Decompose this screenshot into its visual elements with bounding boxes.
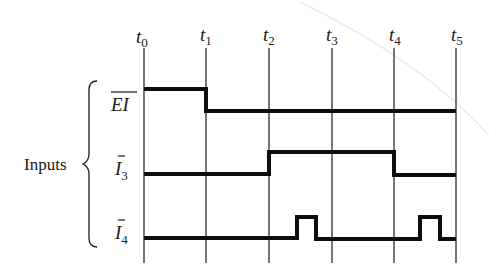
time-label-t3: t3 [326, 24, 338, 48]
waveform-i4 [144, 217, 456, 239]
waveform-i3 [144, 152, 456, 175]
time-label-t1: t1 [200, 24, 212, 48]
time-label-t4: t4 [389, 24, 401, 48]
timing-diagram: t0 t1 t2 t3 t4 t5 Inputs EI I3 I4 [0, 0, 489, 274]
signal-label-i4: I4 [114, 220, 128, 247]
time-label-t5: t5 [451, 24, 463, 48]
svg-text:I3: I3 [114, 158, 128, 183]
time-grid [144, 48, 456, 263]
svg-text:EI: EI [110, 94, 131, 115]
waveform-ei [144, 89, 456, 111]
signal-label-ei: EI [110, 92, 137, 115]
time-labels: t0 t1 t2 t3 t4 t5 [136, 24, 463, 50]
curly-brace-icon [83, 81, 97, 247]
inputs-group-label: Inputs [24, 155, 67, 174]
svg-text:I4: I4 [114, 222, 128, 247]
time-label-t0: t0 [136, 26, 148, 50]
signal-label-i3: I3 [114, 156, 128, 183]
time-label-t2: t2 [263, 24, 275, 48]
